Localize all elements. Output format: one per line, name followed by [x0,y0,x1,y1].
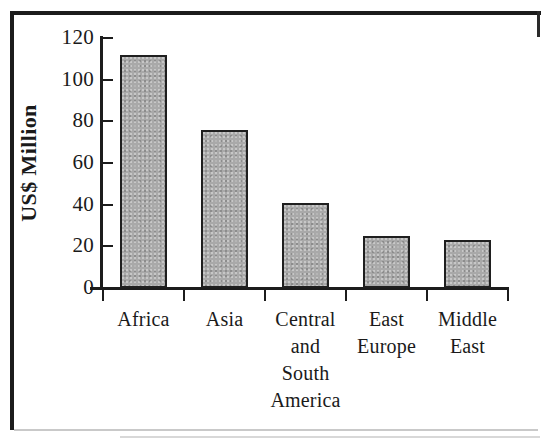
x-axis-tick [264,290,266,301]
x-axis-category-label-line: and [261,333,350,360]
figure-border-right-fragment [537,11,540,37]
y-axis-tick-label: 100 [44,69,94,90]
y-axis-tick-label-text: 20 [48,235,94,256]
x-axis-category-label-line: America [261,387,350,414]
y-axis-tick-label-text: 120 [48,27,94,48]
x-axis-category-label-line: South [261,360,350,387]
y-axis-tick-label-text: 60 [48,152,94,173]
figure-border-bottom-artifact [14,429,538,431]
y-axis-tick-label: 60 [44,152,94,173]
bar [363,236,410,288]
x-axis-tick [102,290,104,301]
x-axis-category-label-line: East [342,306,431,333]
figure-border-top [10,11,541,15]
y-axis-tick-label: 20 [44,235,94,256]
y-axis-tick [103,162,113,164]
x-axis-category-label-line: Middle [423,306,512,333]
y-axis-tick [103,204,113,206]
x-axis-category-label-line: Africa [99,306,188,333]
y-axis-tick [103,79,113,81]
x-axis-tick [426,290,428,301]
chart-figure: 020406080100120 AfricaAsiaCentralandSout… [0,0,551,443]
y-axis-tick-label: 120 [44,27,94,48]
y-axis-tick [103,287,113,289]
x-axis-category-label: Asia [180,306,269,333]
x-axis-category-label: Africa [99,306,188,333]
y-axis-tick-label: 0 [44,277,94,298]
bar [120,55,167,288]
y-axis-tick-label-text: 100 [48,69,94,90]
y-axis-tick-label-text: 0 [48,277,94,298]
y-axis-tick-label: 80 [44,110,94,131]
x-axis-category-label-line: East [423,333,512,360]
x-axis-tick [345,290,347,301]
y-axis-tick [103,37,113,39]
x-axis-category-label: CentralandSouthAmerica [261,306,350,414]
y-axis-tick-label-text: 40 [48,194,94,215]
x-axis-tick [507,290,509,301]
bar [444,240,491,288]
x-axis-category-label-line: Asia [180,306,269,333]
x-axis-category-label-line: Central [261,306,350,333]
y-axis-tick-label: 40 [44,194,94,215]
x-axis-category-label: EastEurope [342,306,431,360]
x-axis-category-label: MiddleEast [423,306,512,360]
bar [282,203,329,288]
figure-border-bottom-artifact-2 [120,436,540,438]
y-axis-tick [103,120,113,122]
bar [201,130,248,288]
y-axis-tick [103,245,113,247]
y-axis-tick-label-text: 80 [48,110,94,131]
x-axis-tick [183,290,185,301]
x-axis-category-label-line: Europe [342,333,431,360]
y-axis-title: US$ Million [16,93,42,233]
